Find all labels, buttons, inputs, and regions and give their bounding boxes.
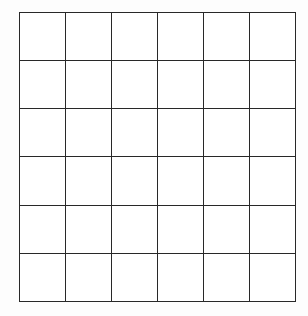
grid-cell[interactable] — [20, 61, 66, 109]
grid-row — [20, 109, 296, 157]
grid-cell[interactable] — [66, 61, 112, 109]
grid-cell[interactable] — [250, 109, 296, 157]
grid-row — [20, 253, 296, 301]
grid-cell[interactable] — [20, 13, 66, 61]
grid-cell[interactable] — [66, 13, 112, 61]
grid-cell[interactable] — [112, 13, 158, 61]
grid-cell[interactable] — [204, 157, 250, 205]
grid-cell[interactable] — [158, 205, 204, 253]
figure-canvas — [0, 0, 308, 316]
grid-cell[interactable] — [204, 13, 250, 61]
grid-cell[interactable] — [112, 205, 158, 253]
grid-cell[interactable] — [112, 61, 158, 109]
grid-cell[interactable] — [158, 13, 204, 61]
grid-cell[interactable] — [158, 61, 204, 109]
grid-row — [20, 157, 296, 205]
grid-cell[interactable] — [20, 205, 66, 253]
grid-cell[interactable] — [112, 109, 158, 157]
grid-cell[interactable] — [158, 157, 204, 205]
grid-cell[interactable] — [250, 253, 296, 301]
grid-cell[interactable] — [250, 205, 296, 253]
grid-cell[interactable] — [204, 109, 250, 157]
grid-cell[interactable] — [66, 253, 112, 301]
grid-cell[interactable] — [112, 253, 158, 301]
grid-cell[interactable] — [112, 157, 158, 205]
grid-cell[interactable] — [250, 13, 296, 61]
grid-row — [20, 205, 296, 253]
grid-row — [20, 61, 296, 109]
grid-cell[interactable] — [20, 109, 66, 157]
grid-cell[interactable] — [66, 205, 112, 253]
grid-cell[interactable] — [20, 157, 66, 205]
grid-cell[interactable] — [158, 253, 204, 301]
grid-body — [20, 13, 296, 302]
grid-cell[interactable] — [204, 253, 250, 301]
grid-cell[interactable] — [250, 157, 296, 205]
grid-cell[interactable] — [66, 157, 112, 205]
grid-cell[interactable] — [66, 109, 112, 157]
grid-row — [20, 13, 296, 61]
grid-cell[interactable] — [158, 109, 204, 157]
grid-cell[interactable] — [204, 205, 250, 253]
blank-grid-figure — [19, 12, 296, 302]
grid-cell[interactable] — [204, 61, 250, 109]
grid-cell[interactable] — [250, 61, 296, 109]
grid-table — [19, 12, 296, 302]
grid-cell[interactable] — [20, 253, 66, 301]
